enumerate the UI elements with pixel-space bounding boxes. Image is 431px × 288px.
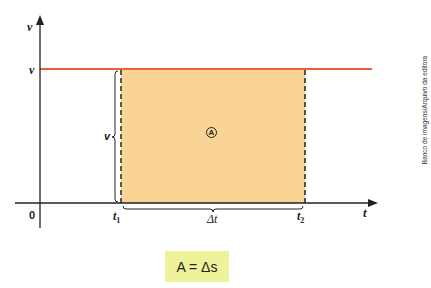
- velocity-value-label: v: [29, 64, 34, 76]
- x-axis-arrow-icon: [368, 199, 378, 207]
- delta-t-label: Δt: [207, 213, 217, 225]
- origin-label: 0: [29, 209, 35, 221]
- image-credit: Banco de imagens/Arquivo da editora: [421, 56, 428, 164]
- graph-canvas: [0, 0, 431, 288]
- t2-label: t2: [297, 210, 304, 222]
- formula-box: A = Δs: [165, 251, 229, 282]
- x-axis-label: t: [363, 206, 367, 219]
- y-axis-arrow-icon: [36, 15, 44, 25]
- t1-label: t1: [113, 210, 120, 222]
- height-brace: [112, 71, 118, 202]
- height-label: v: [104, 130, 110, 142]
- area-marker: A: [206, 127, 217, 138]
- t1-subscript: 1: [116, 216, 120, 225]
- y-axis-label: v: [27, 21, 32, 33]
- t2-subscript: 2: [300, 216, 304, 225]
